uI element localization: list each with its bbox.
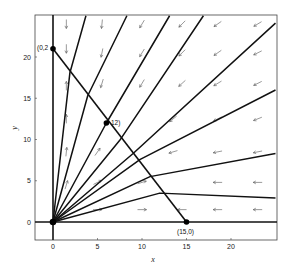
- vector-arrow: [254, 22, 262, 27]
- y-tick-label: 20: [23, 54, 31, 61]
- y-tick-label: 5: [27, 177, 31, 184]
- point-label-right: (15,0): [177, 228, 194, 236]
- trajectory: [53, 16, 203, 222]
- vector-arrow: [179, 21, 185, 27]
- vector-arrow: [214, 21, 221, 26]
- phase-plane-chart: 05101520 05101520 (0,2 12) (15,0) x y: [0, 0, 288, 274]
- y-tick-label: 10: [23, 136, 31, 143]
- y-axis-label: y: [10, 126, 19, 131]
- vector-arrow: [65, 20, 68, 29]
- x-tick-label: 15: [183, 243, 191, 250]
- vector-field-arrows: [65, 20, 262, 212]
- vector-arrow: [254, 51, 262, 55]
- trajectory: [53, 90, 276, 222]
- y-tick-label: 15: [23, 95, 31, 102]
- x-tick-label: 20: [227, 243, 235, 250]
- vector-arrow: [138, 208, 147, 211]
- vector-arrow: [65, 44, 68, 53]
- vector-arrow: [213, 151, 222, 154]
- vector-arrow: [213, 208, 222, 211]
- equilibrium-point: [50, 46, 56, 52]
- vector-arrow: [214, 81, 222, 86]
- trajectory: [53, 154, 276, 222]
- x-tick-label: 10: [138, 243, 146, 250]
- vector-arrow: [253, 208, 262, 211]
- vector-arrow: [253, 151, 262, 154]
- vector-arrow: [100, 48, 103, 57]
- vector-arrow: [254, 81, 262, 85]
- vector-arrow: [140, 20, 145, 28]
- vector-arrow: [100, 20, 103, 29]
- vector-arrow: [65, 181, 68, 190]
- vector-arrow: [254, 117, 262, 121]
- equilibrium-point: [184, 219, 190, 225]
- vector-arrow: [140, 80, 145, 88]
- vector-arrow: [179, 80, 186, 86]
- vector-arrow: [140, 49, 145, 57]
- nullcline: [53, 49, 187, 222]
- vector-arrow: [214, 50, 221, 55]
- vector-arrow: [65, 147, 68, 156]
- x-tick-label: 0: [51, 243, 55, 250]
- equilibrium-point: [104, 120, 110, 126]
- trajectory-curves: [53, 16, 276, 222]
- y-tick-label: 0: [27, 219, 31, 226]
- vector-arrow: [100, 79, 103, 88]
- vector-arrow: [213, 181, 222, 184]
- vector-arrow: [169, 151, 178, 154]
- point-label-top: (0,2: [37, 44, 49, 52]
- vector-arrow: [178, 208, 187, 211]
- vector-arrow: [253, 181, 262, 184]
- vector-arrow: [95, 148, 100, 155]
- x-axis-label: x: [150, 255, 155, 264]
- nullcline-line: [53, 49, 187, 222]
- point-label-mid: 12): [111, 119, 120, 127]
- equilibrium-point: [50, 219, 57, 226]
- x-tick-label: 5: [96, 243, 100, 250]
